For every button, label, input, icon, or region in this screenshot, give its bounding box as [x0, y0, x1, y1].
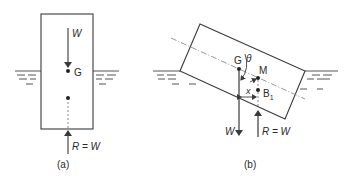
- centre-of-gravity-label-b: G: [234, 55, 242, 66]
- angle-label-b: θ: [246, 53, 252, 64]
- reaction-label-b: R = W: [262, 126, 292, 137]
- caption-a: (a): [57, 159, 69, 170]
- centre-of-gravity-label-a: G: [74, 67, 82, 78]
- reaction-label-a: R = W: [72, 141, 102, 152]
- centre-of-buoyancy-label-b: B1: [263, 88, 274, 101]
- caption-b: (b): [244, 159, 256, 170]
- figure-a-upright-body: W G R = W (a): [15, 14, 119, 170]
- weight-label-a: W: [72, 28, 83, 39]
- stability-diagram: W G R = W (a): [0, 0, 352, 178]
- metacentre-dot-b: [256, 76, 260, 80]
- centre-of-buoyancy-dot-a: [66, 96, 70, 100]
- water-surface-left-b: [153, 71, 196, 84]
- distance-x-label-b: x: [245, 86, 251, 96]
- angle-arrow-to-m: [250, 79, 256, 82]
- weight-label-b: W: [225, 126, 236, 137]
- figure-b-heeled-body: G W θ M B1 x R = W (b): [153, 24, 338, 170]
- water-surface-left-a: [15, 71, 41, 84]
- water-surface-right-b: [300, 71, 338, 89]
- centre-of-buoyancy-dot-b: [256, 88, 260, 92]
- centre-of-gravity-dot-a: [66, 69, 70, 73]
- centre-of-gravity-dot-b: [237, 67, 241, 71]
- floating-body-b: [180, 24, 305, 119]
- water-surface-right-a: [93, 71, 119, 84]
- metacentre-label-b: M: [259, 65, 267, 76]
